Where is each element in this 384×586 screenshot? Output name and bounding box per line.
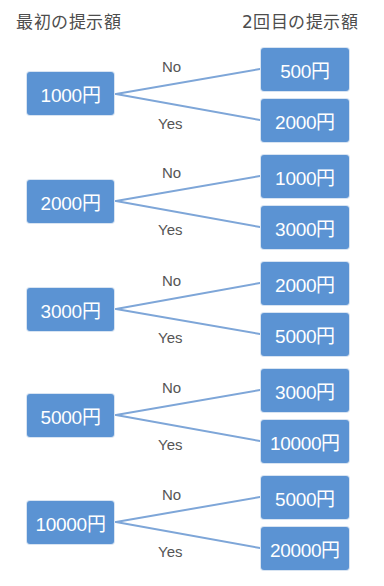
connector-yes-2 — [116, 201, 260, 227]
edge-label-yes: Yes — [158, 115, 182, 132]
second-offer-no-box: 3000円 — [261, 369, 349, 412]
edge-label-yes: Yes — [158, 436, 182, 453]
connector-yes-3 — [116, 309, 260, 334]
second-offer-yes-box: 2000円 — [261, 99, 349, 142]
edge-label-yes: Yes — [158, 329, 182, 346]
connector-yes-1 — [116, 94, 260, 120]
edge-label-no: No — [162, 272, 181, 289]
connector-no-5 — [116, 497, 260, 522]
connector-no-1 — [116, 69, 260, 94]
second-offer-yes-box: 3000円 — [261, 206, 349, 249]
connector-yes-5 — [116, 522, 260, 548]
second-offer-yes-box: 5000円 — [261, 313, 349, 356]
edge-label-yes: Yes — [158, 221, 182, 238]
first-offer-box: 2000円 — [27, 180, 114, 223]
edge-label-no: No — [162, 486, 181, 503]
first-offer-box: 3000円 — [27, 288, 114, 331]
connector-no-2 — [116, 176, 260, 201]
first-offer-box: 1000円 — [27, 72, 114, 115]
edge-label-no: No — [162, 379, 181, 396]
second-offer-no-box: 1000円 — [261, 155, 349, 198]
header-second-offer: 2回目の提示額 — [242, 10, 358, 34]
second-offer-no-box: 500円 — [261, 48, 349, 91]
second-offer-yes-box: 20000円 — [261, 527, 349, 570]
header-first-offer: 最初の提示額 — [16, 10, 121, 34]
connector-no-3 — [116, 283, 260, 309]
second-offer-yes-box: 10000円 — [261, 420, 349, 463]
edge-label-no: No — [162, 164, 181, 181]
edge-label-yes: Yes — [158, 543, 182, 560]
second-offer-no-box: 5000円 — [261, 476, 349, 519]
connector-no-4 — [116, 390, 260, 415]
second-offer-no-box: 2000円 — [261, 262, 349, 305]
first-offer-box: 5000円 — [27, 394, 114, 437]
first-offer-box: 10000円 — [27, 501, 114, 544]
connector-yes-4 — [116, 415, 260, 441]
edge-label-no: No — [162, 58, 181, 75]
